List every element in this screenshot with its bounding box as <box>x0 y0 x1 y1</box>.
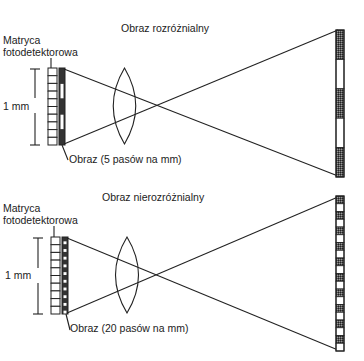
image-label: Obraz (5 pasów na mm) <box>69 153 182 165</box>
target-band-light <box>336 59 344 88</box>
target-band-dark <box>336 30 344 59</box>
detector-cell <box>48 83 57 91</box>
scale-bar <box>33 238 43 314</box>
detector-cell <box>51 237 60 245</box>
target-band-light <box>336 266 344 274</box>
image-strip-band <box>61 84 64 98</box>
detector-cell <box>48 114 57 122</box>
target-band-dark <box>336 196 344 204</box>
detector-array <box>51 237 60 314</box>
image-strip-band <box>64 311 67 314</box>
lens <box>113 68 136 144</box>
scale-label: 1 mm <box>5 269 32 281</box>
detector-label-line1: Matryca <box>3 202 41 214</box>
detector-cell <box>51 306 60 314</box>
target-band-dark <box>336 320 344 328</box>
detector-array <box>48 68 57 145</box>
scale-bar <box>30 69 40 145</box>
target-band-light <box>336 235 344 243</box>
detector-label-line2: fotodetektorowa <box>3 214 78 226</box>
image-strip-band <box>64 249 67 252</box>
detector-cell <box>48 76 57 84</box>
detector-cell <box>51 252 60 260</box>
target-band-light <box>336 328 344 336</box>
image-strip <box>59 68 65 145</box>
lens <box>116 237 139 313</box>
image-label: Obraz (20 pasów na mm) <box>70 322 188 334</box>
panel-unresolvable: Obraz nierozróżnialny Matryca fotodetekt… <box>3 191 344 351</box>
target-band-dark <box>336 227 344 235</box>
detector-label-line1: Matryca <box>3 34 41 46</box>
target-bars <box>336 30 344 177</box>
target-band-dark <box>336 305 344 313</box>
target-band-light <box>336 204 344 212</box>
detector-label-line2: fotodetektorowa <box>3 46 78 58</box>
target-band-dark <box>336 336 344 344</box>
target-band-light <box>336 281 344 289</box>
image-leader-line <box>62 145 68 160</box>
target-band-light <box>336 343 344 351</box>
image-strip-frame <box>59 68 65 145</box>
target-band-dark <box>336 258 344 266</box>
detector-cell <box>51 276 60 284</box>
ray-lower <box>64 30 338 144</box>
detector-cell <box>51 268 60 276</box>
target-band-dark <box>336 212 344 220</box>
image-strip-band <box>64 288 67 291</box>
detector-cell <box>48 130 57 138</box>
detector-cell <box>51 245 60 253</box>
image-strip-band <box>64 257 67 260</box>
image-strip-band <box>64 272 67 275</box>
optical-resolution-diagram: Obraz rozróżnialny Matryca fotodetektoro… <box>0 0 364 361</box>
image-strip-frame <box>62 237 68 314</box>
scale-label: 1 mm <box>3 100 30 112</box>
detector-cell <box>51 260 60 268</box>
image-strip-band <box>64 241 67 244</box>
target-band-light <box>336 250 344 258</box>
image-strip-band <box>64 303 67 306</box>
target-band-dark <box>336 89 344 118</box>
detector-cell <box>51 283 60 291</box>
detector-cell <box>48 99 57 107</box>
target-band-dark <box>336 274 344 282</box>
detector-cell <box>48 137 57 145</box>
target-bars <box>336 196 344 351</box>
detector-cell <box>51 291 60 299</box>
panel-title: Obraz rozróżnialny <box>121 22 210 34</box>
target-band-light <box>336 312 344 320</box>
detector-cell <box>48 107 57 115</box>
target-band-light <box>336 297 344 305</box>
detector-cell <box>48 122 57 130</box>
image-strip-band <box>61 115 64 129</box>
image-strip-band <box>64 264 67 267</box>
target-band-dark <box>336 243 344 251</box>
panel-resolvable: Obraz rozróżnialny Matryca fotodetektoro… <box>3 22 344 177</box>
detector-cell <box>51 299 60 307</box>
image-strip-band <box>64 280 67 283</box>
image-strip-band <box>64 295 67 298</box>
image-strip <box>62 237 68 314</box>
target-band-light <box>336 118 344 147</box>
panel-title: Obraz nierozróżnialny <box>102 191 205 203</box>
detector-cell <box>48 91 57 99</box>
target-band-light <box>336 219 344 227</box>
target-band-dark <box>336 148 344 177</box>
detector-cell <box>48 68 57 76</box>
target-band-dark <box>336 289 344 297</box>
